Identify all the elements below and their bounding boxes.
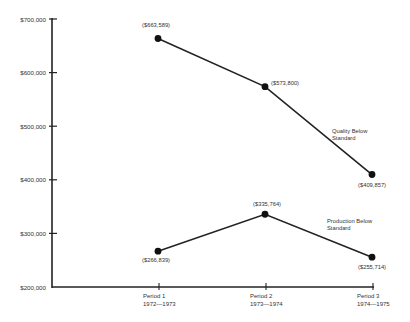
x-axis: Period 11972—1973Period 21973—1974Period… bbox=[52, 283, 390, 307]
y-tick-label: $600,000 bbox=[20, 69, 46, 76]
data-point bbox=[369, 254, 376, 261]
series-name-label: Standard bbox=[332, 135, 356, 141]
y-tick-label: $700,000 bbox=[20, 16, 46, 23]
data-point bbox=[155, 35, 162, 42]
x-tick-label: Period 3 bbox=[357, 293, 380, 299]
y-tick-label: $300,000 bbox=[20, 230, 46, 237]
x-tick-sublabel: 1972—1973 bbox=[143, 301, 176, 307]
series-production-below-standard: ($266,839)($335,764)($255,714)Production… bbox=[142, 201, 386, 270]
data-label: ($663,589) bbox=[142, 22, 170, 28]
x-tick-sublabel: 1974—1975 bbox=[357, 301, 390, 307]
data-label: ($266,839) bbox=[142, 257, 170, 263]
x-tick-label: Period 1 bbox=[143, 293, 166, 299]
data-label: ($335,764) bbox=[253, 201, 281, 207]
data-label: ($409,857) bbox=[358, 182, 386, 188]
data-label: ($255,714) bbox=[358, 264, 386, 270]
series-quality-below-standard: ($663,589)($573,800)($409,857)Quality Be… bbox=[142, 22, 386, 188]
series-line bbox=[158, 39, 372, 175]
series-name-label: Standard bbox=[327, 225, 351, 231]
y-tick-label: $500,000 bbox=[20, 123, 46, 130]
series-name-label: Quality Below bbox=[332, 128, 368, 134]
series-name-label: Production Below bbox=[327, 218, 373, 224]
line-chart: $700,000$600,000$500,000$400,000$300,000… bbox=[0, 0, 410, 322]
data-point bbox=[262, 211, 269, 218]
data-point bbox=[155, 248, 162, 255]
y-tick-label: $400,000 bbox=[20, 176, 46, 183]
x-tick-sublabel: 1973—1974 bbox=[250, 301, 283, 307]
data-label: ($573,800) bbox=[271, 80, 299, 86]
y-tick-label: $200,000 bbox=[20, 284, 46, 291]
data-point bbox=[262, 83, 269, 90]
data-point bbox=[369, 171, 376, 178]
y-axis: $700,000$600,000$500,000$400,000$300,000… bbox=[20, 16, 57, 291]
x-tick-label: Period 2 bbox=[250, 293, 273, 299]
series-layer: ($663,589)($573,800)($409,857)Quality Be… bbox=[142, 22, 386, 271]
